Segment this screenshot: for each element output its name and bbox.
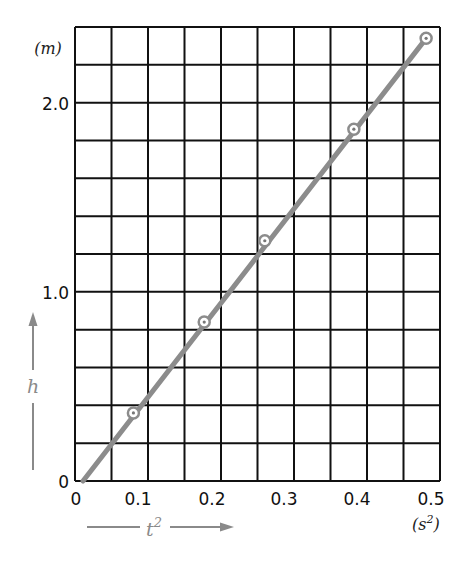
arrow-up-icon xyxy=(29,312,38,326)
x-tick-0-5: 0.5 xyxy=(417,489,444,509)
y-tick-2-0: 2.0 xyxy=(42,94,69,114)
data-point-center xyxy=(352,128,355,131)
x-tick-0-1: 0.1 xyxy=(124,489,151,509)
arrow-right-icon xyxy=(220,523,234,532)
y-axis-label: h xyxy=(27,375,39,397)
data-point-center xyxy=(263,239,266,242)
data-point-center xyxy=(203,321,206,324)
x-unit-label: (s2) xyxy=(412,513,440,534)
y-unit-label: (m) xyxy=(34,39,62,58)
x-tick-0-3: 0.3 xyxy=(270,489,297,509)
data-point-center xyxy=(425,37,428,40)
x-tick-0: 0 xyxy=(71,489,82,509)
data-point-center xyxy=(132,411,135,414)
x-axis-label: t2 xyxy=(146,515,162,540)
x-tick-0-2: 0.2 xyxy=(198,489,225,509)
y-tick-1-0: 1.0 xyxy=(42,283,69,303)
y-tick-0: 0 xyxy=(58,472,69,492)
x-tick-0-4: 0.4 xyxy=(343,489,370,509)
h-vs-t-squared-chart: 2.0 1.0 0 0 0.1 0.2 0.3 0.4 0.5 (m) (s2)… xyxy=(0,0,468,571)
